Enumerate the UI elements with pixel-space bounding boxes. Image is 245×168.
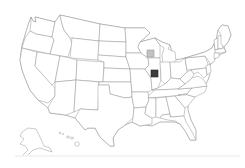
- footer-band: [15, 155, 240, 157]
- state-new-mexico: [74, 80, 99, 112]
- state-connecticut: [214, 53, 219, 59]
- us-map: [0, 0, 245, 168]
- state-new-jersey: [206, 64, 211, 75]
- state-kansas: [103, 68, 131, 82]
- state-hawaii: [59, 132, 79, 146]
- state-alaska: [20, 128, 52, 156]
- state-south-dakota: [98, 41, 126, 57]
- state-colorado: [76, 60, 104, 82]
- state-wyoming: [70, 38, 99, 60]
- state-vermont: [214, 38, 218, 50]
- state-north-dakota: [99, 24, 126, 42]
- state-pennsylvania: [185, 56, 208, 70]
- marker-wisconsin-light: [147, 50, 154, 57]
- us-map-svg: [0, 0, 245, 168]
- marker-illinois-dark: [151, 70, 158, 77]
